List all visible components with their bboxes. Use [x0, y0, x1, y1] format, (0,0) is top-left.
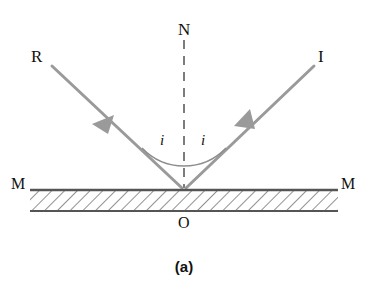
- incident-ray-label: I: [318, 48, 324, 65]
- normal-label: N: [178, 21, 190, 38]
- reflected-ray-arrowhead: [92, 115, 114, 134]
- reflected-ray-label: R: [31, 48, 42, 65]
- mirror-left-label: M: [11, 176, 25, 192]
- figure-caption: (a): [0, 258, 368, 275]
- angle-incidence-right-label: i: [201, 133, 205, 148]
- reflection-diagram: I R N M M O i i (a): [0, 0, 368, 291]
- incident-ray-arrowhead: [234, 109, 255, 129]
- angle-incidence-left-label: i: [160, 133, 164, 148]
- reflected-ray-line: [52, 66, 182, 188]
- diagram-canvas: [0, 0, 368, 291]
- mirror-hatched-body: [30, 191, 338, 211]
- origin-label: O: [178, 215, 190, 231]
- mirror-right-label: M: [341, 176, 355, 192]
